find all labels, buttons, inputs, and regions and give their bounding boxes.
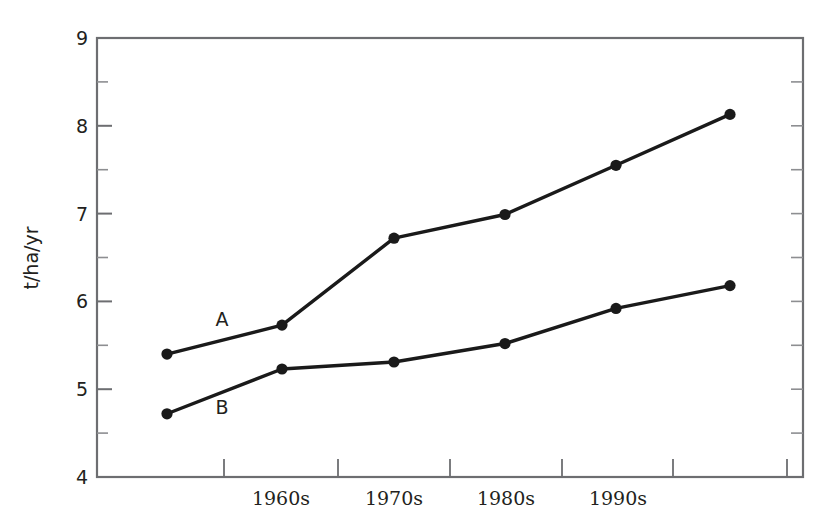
y-axis-tick-label-4: 4	[76, 466, 88, 488]
data-point-a-1	[276, 320, 287, 331]
x-axis-tick-label-1990s: 1990s	[589, 487, 647, 509]
series-line-b	[167, 286, 730, 414]
y-axis-tick-label-6: 6	[76, 290, 88, 312]
data-point-b-2	[388, 356, 399, 367]
line-chart-canvas: 9 8 7 6 5 4 1960s 1970s 1980s 1990s t/ha…	[0, 0, 833, 522]
data-point-a-2	[388, 233, 399, 244]
data-point-b-0	[161, 408, 172, 419]
series-a	[161, 109, 735, 360]
chart-figure: 9 8 7 6 5 4 1960s 1970s 1980s 1990s t/ha…	[0, 0, 833, 522]
x-axis-tick-label-1970s: 1970s	[365, 487, 423, 509]
data-series-layer	[161, 109, 735, 420]
series-line-a	[167, 114, 730, 354]
y-axis-title: t/ha/yr	[20, 226, 42, 289]
data-point-b-4	[610, 303, 621, 314]
data-point-a-5	[724, 109, 735, 120]
data-point-b-1	[276, 363, 287, 374]
data-point-a-0	[161, 348, 172, 359]
y-axis-tick-label-8: 8	[76, 115, 88, 137]
y-axis-tick-label-7: 7	[76, 203, 88, 225]
y-axis-minor-ticks	[97, 82, 108, 433]
plot-border	[97, 38, 803, 477]
series-label-a: A	[216, 308, 229, 330]
data-point-b-3	[499, 338, 510, 349]
series-b	[161, 280, 735, 419]
right-axis-ticks	[791, 82, 803, 433]
y-axis-tick-label-9: 9	[76, 27, 88, 49]
plot-frame	[97, 38, 803, 477]
data-point-a-3	[499, 209, 510, 220]
data-point-a-4	[610, 160, 621, 171]
x-axis-tick-label-1980s: 1980s	[477, 487, 535, 509]
x-axis-ticks	[224, 459, 787, 477]
y-axis-tick-label-5: 5	[76, 378, 88, 400]
data-point-b-5	[724, 280, 735, 291]
x-axis-tick-label-1960s: 1960s	[252, 487, 310, 509]
series-label-b: B	[215, 396, 228, 418]
